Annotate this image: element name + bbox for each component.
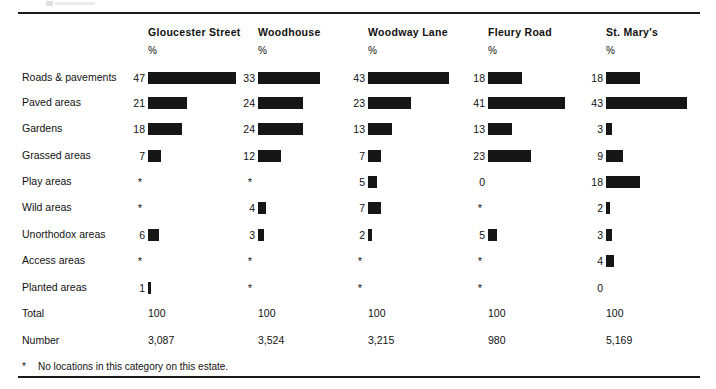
cell-value: 9: [597, 149, 603, 163]
value-bar: [606, 176, 640, 188]
row-label: Wild areas: [22, 201, 72, 213]
cell-value: 43: [353, 71, 365, 85]
column-header-unit: %: [606, 45, 658, 56]
value-bar: [368, 150, 381, 162]
cell-value: *: [138, 201, 142, 215]
estate-land-use-table: Gloucester Street%Woodhouse%Woodway Lane…: [0, 0, 716, 389]
cell-value: 18: [591, 175, 603, 189]
cell-value: 4: [249, 201, 255, 215]
column-header-unit: %: [368, 45, 448, 56]
value-bar: [148, 150, 161, 162]
column-header-3: Woodway Lane%: [368, 26, 448, 56]
footnote-text: No locations in this category on this es…: [38, 361, 228, 372]
column-header-5: St. Mary's%: [606, 26, 658, 56]
cell-value: 5: [479, 228, 485, 242]
cell-value: 5: [359, 175, 365, 189]
total-row-value: 100: [368, 307, 386, 319]
column-header-name: Woodhouse: [258, 26, 321, 38]
cell-value: 23: [473, 149, 485, 163]
column-header-unit: %: [258, 45, 321, 56]
cell-value: 13: [353, 122, 365, 136]
cell-value: 18: [591, 71, 603, 85]
cell-value: *: [358, 281, 362, 295]
value-bar: [606, 150, 623, 162]
cell-value: 13: [473, 122, 485, 136]
value-bar: [368, 176, 377, 188]
number-row-label: Number: [22, 334, 59, 346]
value-bar: [606, 255, 614, 267]
column-header-name: Woodway Lane: [368, 26, 448, 38]
value-bar: [258, 97, 303, 109]
value-bar: [488, 150, 531, 162]
footnote: *No locations in this category on this e…: [22, 361, 228, 372]
value-bar: [258, 202, 266, 214]
total-row-label: Total: [22, 307, 44, 319]
row-label: Roads & pavements: [22, 71, 117, 83]
row-label: Play areas: [22, 175, 72, 187]
cell-value: 3: [597, 122, 603, 136]
value-bar: [148, 282, 151, 294]
cell-value: 43: [591, 96, 603, 110]
cell-value: 0: [597, 281, 603, 295]
number-row-value: 5,169: [606, 334, 632, 346]
cell-value: 7: [359, 149, 365, 163]
cell-value: *: [478, 201, 482, 215]
cell-value: *: [248, 254, 252, 268]
cell-value: 2: [597, 201, 603, 215]
value-bar: [258, 123, 303, 135]
value-bar: [606, 229, 612, 241]
number-row-value: 980: [488, 334, 506, 346]
cell-value: 7: [359, 201, 365, 215]
row-label: Grassed areas: [22, 149, 91, 161]
column-header-1: Gloucester Street%: [148, 26, 241, 56]
cell-value: 21: [133, 96, 145, 110]
number-row-value: 3,524: [258, 334, 284, 346]
value-bar: [488, 123, 512, 135]
column-header-name: St. Mary's: [606, 26, 658, 38]
row-label: Access areas: [22, 254, 85, 266]
value-bar: [148, 72, 236, 84]
column-header-2: Woodhouse%: [258, 26, 321, 56]
value-bar: [606, 202, 610, 214]
cell-value: *: [478, 281, 482, 295]
cell-value: 12: [243, 149, 255, 163]
cell-value: 41: [473, 96, 485, 110]
total-row-value: 100: [148, 307, 166, 319]
number-row-value: 3,215: [368, 334, 394, 346]
number-row-value: 3,087: [148, 334, 174, 346]
value-bar: [368, 202, 381, 214]
cell-value: 23: [353, 96, 365, 110]
value-bar: [148, 97, 187, 109]
cell-value: 2: [359, 228, 365, 242]
total-row-value: 100: [258, 307, 276, 319]
cell-value: *: [478, 254, 482, 268]
value-bar: [258, 229, 264, 241]
cell-value: 3: [249, 228, 255, 242]
value-bar: [488, 229, 497, 241]
total-row-value: 100: [606, 307, 624, 319]
value-bar: [148, 229, 159, 241]
value-bar: [606, 72, 640, 84]
cell-value: *: [358, 254, 362, 268]
cell-value: 4: [597, 254, 603, 268]
value-bar: [258, 72, 320, 84]
cell-value: *: [248, 175, 252, 189]
cell-value: 24: [243, 96, 255, 110]
column-header-4: Fleury Road%: [488, 26, 552, 56]
value-bar: [488, 97, 565, 109]
column-header-unit: %: [488, 45, 552, 56]
cell-value: 7: [139, 149, 145, 163]
cell-value: *: [248, 281, 252, 295]
row-label: Gardens: [22, 122, 62, 134]
cell-value: *: [138, 254, 142, 268]
column-header-name: Gloucester Street: [148, 26, 241, 38]
value-bar: [258, 150, 281, 162]
value-bar: [606, 97, 687, 109]
value-bar: [488, 72, 522, 84]
value-bar: [368, 72, 449, 84]
row-label: Planted areas: [22, 281, 87, 293]
footnote-marker: *: [22, 361, 38, 372]
cell-value: 24: [243, 122, 255, 136]
cell-value: 1: [139, 281, 145, 295]
row-label: Unorthodox areas: [22, 228, 105, 240]
